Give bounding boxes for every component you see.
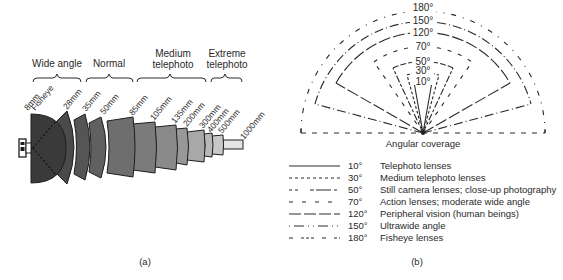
focal-label-1000mm: 1000mm bbox=[238, 110, 267, 142]
arc-labels: 180° 150° 120° 70° 50° 30° 10° bbox=[410, 2, 436, 87]
lens-shape-85mm bbox=[107, 117, 135, 177]
lens-shape-500mm bbox=[212, 135, 224, 155]
panel-a-focal-length-diagram: Wide angle Normal Medium telephoto Extre… bbox=[19, 48, 267, 267]
arc-label-180: 180° bbox=[413, 2, 434, 13]
legend-description: Medium telephoto lenses bbox=[380, 172, 486, 183]
lens-shape-300mm bbox=[187, 130, 205, 162]
legend-row-10: 10° Telephoto lenses bbox=[289, 160, 452, 171]
group-label-normal: Normal bbox=[93, 58, 125, 69]
lens-shape-35mm bbox=[74, 114, 90, 180]
legend-angle: 180° bbox=[348, 232, 368, 243]
legend-row-30: 30° Medium telephoto lenses bbox=[289, 172, 486, 183]
legend-description: Telephoto lenses bbox=[380, 160, 452, 171]
camera-icon bbox=[19, 139, 31, 157]
panel-b-angular-coverage-diagram: 180° 150° 120° 70° 50° 30° 10° Angular c… bbox=[289, 2, 557, 267]
legend-row-50: 50° Still camera lenses; close-up photog… bbox=[289, 184, 557, 195]
arc-label-10: 10° bbox=[415, 76, 430, 87]
vertex-point bbox=[421, 131, 425, 135]
angular-coverage-title: Angular coverage bbox=[386, 138, 460, 149]
legend-angle: 120° bbox=[348, 208, 368, 219]
group-brace-normal bbox=[86, 74, 133, 82]
legend-angle: 70° bbox=[348, 196, 363, 207]
lens-shape-1000mm bbox=[223, 140, 243, 149]
legend-angle: 150° bbox=[348, 220, 368, 231]
lens-shape-105mm bbox=[133, 122, 157, 173]
legend-description: Still camera lenses; close-up photograph… bbox=[380, 184, 557, 195]
arc-label-30: 30° bbox=[415, 65, 430, 76]
arc-label-150: 150° bbox=[413, 15, 434, 26]
legend-angle: 10° bbox=[348, 160, 363, 171]
legend-angle: 30° bbox=[348, 172, 363, 183]
legend-description: Peripheral vision (human beings) bbox=[380, 208, 519, 219]
legend-row-180: 180° Fisheye lenses bbox=[289, 232, 444, 243]
legend: 10° Telephoto lenses 30° Medium telephot… bbox=[289, 160, 557, 243]
arc-label-120: 120° bbox=[413, 27, 434, 38]
group-label-extreme-line1: Extreme bbox=[208, 48, 246, 59]
group-brace-extreme-telephoto bbox=[211, 74, 242, 82]
panel-a-caption: (a) bbox=[139, 256, 151, 267]
group-label-medium-line1: Medium bbox=[155, 48, 191, 59]
lens-shape-135mm bbox=[155, 125, 178, 170]
lens-figure: Wide angle Normal Medium telephoto Extre… bbox=[0, 0, 563, 280]
legend-angle: 50° bbox=[348, 184, 363, 195]
group-brace-wide-angle bbox=[33, 74, 81, 82]
group-label-wide-angle: Wide angle bbox=[32, 58, 82, 69]
group-brace-medium-telephoto bbox=[137, 74, 206, 82]
lens-shape-50mm bbox=[89, 117, 106, 178]
coverage-10-telephoto bbox=[414, 81, 432, 133]
focal-label-85mm: 85mm bbox=[127, 93, 150, 118]
group-label-extreme-line2: telephoto bbox=[206, 59, 248, 70]
legend-row-120: 120° Peripheral vision (human beings) bbox=[289, 208, 519, 219]
legend-description: Action lenses; moderate wide angle bbox=[380, 196, 530, 207]
legend-row-150: 150° Ultrawide angle bbox=[289, 220, 445, 231]
legend-description: Fisheye lenses bbox=[380, 232, 444, 243]
group-label-medium-line2: telephoto bbox=[152, 59, 194, 70]
arc-label-70: 70° bbox=[415, 41, 430, 52]
legend-description: Ultrawide angle bbox=[380, 220, 445, 231]
legend-row-70: 70° Action lenses; moderate wide angle bbox=[289, 196, 530, 207]
panel-b-caption: (b) bbox=[411, 256, 423, 267]
